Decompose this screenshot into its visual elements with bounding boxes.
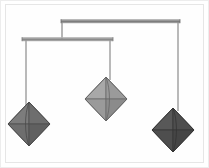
upper-crossbar <box>61 19 180 23</box>
mobile-scene: Kinetic mobile: two crossbars suspending… <box>0 0 209 168</box>
middle-octahedron <box>85 77 127 121</box>
left-octahedron <box>8 102 50 146</box>
mobile-illustration <box>0 0 209 168</box>
right-octahedron <box>152 108 194 152</box>
lower-crossbar <box>22 37 113 41</box>
